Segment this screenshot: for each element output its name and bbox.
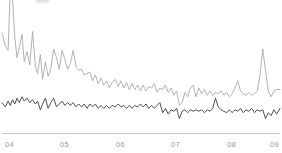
x-tick-label-2: 06 <box>116 140 125 149</box>
x-tick-label-1: 05 <box>60 140 69 149</box>
plot-area <box>0 0 282 153</box>
series-line-upper <box>2 0 280 105</box>
series-line-lower <box>2 97 280 119</box>
x-tick-label-4: 08 <box>227 140 236 149</box>
x-tick-label-3: 07 <box>171 140 180 149</box>
line-chart: 04 05 06 07 08 09 <box>0 0 282 153</box>
x-tick-label-5: 09 <box>270 140 279 149</box>
x-tick-label-0: 04 <box>5 140 14 149</box>
